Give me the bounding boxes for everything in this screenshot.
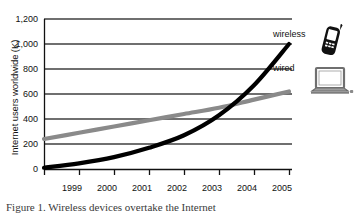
series-line-wired	[44, 92, 289, 140]
series-label-wired: wired	[273, 63, 295, 73]
figure-caption: Figure 1. Wireless devices overtake the …	[6, 201, 216, 213]
series-label-wireless: wireless	[273, 29, 306, 39]
x-axis	[44, 169, 292, 175]
laptop-icon	[310, 66, 354, 104]
figure-container: Internet users worldwide (K) 1,200 1,000…	[0, 0, 356, 213]
mobile-phone-icon	[316, 20, 348, 64]
series-line-wireless	[44, 44, 289, 168]
